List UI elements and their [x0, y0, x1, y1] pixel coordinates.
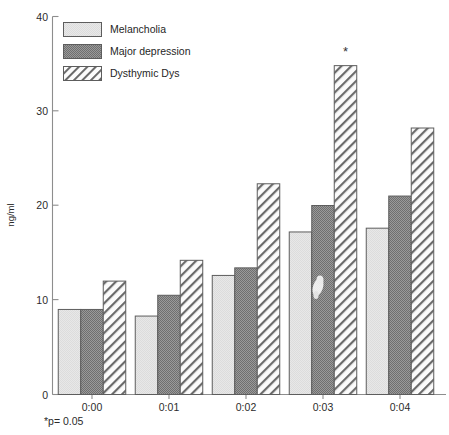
- bar-dysthymic-dys-0-03[interactable]: [334, 66, 357, 395]
- y-tick-label-10: 10: [36, 294, 48, 306]
- legend: Melancholia Major depression Dysthymic D…: [64, 23, 191, 81]
- legend-label-dysthymic-dys: Dysthymic Dys: [110, 67, 179, 79]
- x-tick-label-0: 0:00: [82, 401, 103, 413]
- bar-melancholia-0-00[interactable]: [58, 309, 81, 394]
- legend-swatch-dysthymic-dys: [64, 67, 102, 81]
- chart-canvas: 40 30 20 10 0 ng/ml 0:00 0:01 0:02 0:03 …: [0, 0, 449, 435]
- x-tick-label-3: 0:03: [313, 401, 334, 413]
- bar-dysthymic-dys-0-01[interactable]: [180, 260, 203, 394]
- bar-chart-figure: 40 30 20 10 0 ng/ml 0:00 0:01 0:02 0:03 …: [0, 0, 449, 435]
- bars-layer: [58, 66, 434, 395]
- legend-label-major-depression: Major depression: [110, 45, 191, 57]
- bar-melancholia-0-02[interactable]: [212, 275, 235, 394]
- bar-dysthymic-dys-0-02[interactable]: [257, 184, 280, 395]
- x-tick-label-2: 0:02: [236, 401, 257, 413]
- bar-group-0-03: [289, 66, 357, 395]
- legend-label-melancholia: Melancholia: [110, 23, 166, 35]
- y-axis: 40 30 20 10 0 ng/ml: [5, 11, 59, 401]
- y-tick-label-40: 40: [36, 11, 48, 23]
- bar-major-depression-0-01[interactable]: [158, 295, 181, 394]
- legend-swatch-melancholia: [64, 23, 102, 37]
- bar-dysthymic-dys-0-00[interactable]: [103, 281, 126, 394]
- x-tick-label-4: 0:04: [390, 401, 411, 413]
- x-tick-label-1: 0:01: [159, 401, 180, 413]
- y-tick-label-0: 0: [42, 389, 48, 401]
- y-tick-label-20: 20: [36, 199, 48, 211]
- bar-group-0-01: [135, 260, 203, 394]
- footnote: *p= 0.05: [44, 415, 84, 427]
- significance-asterisk: *: [343, 44, 348, 59]
- bar-melancholia-0-01[interactable]: [135, 316, 158, 394]
- y-tick-label-30: 30: [36, 105, 48, 117]
- bar-major-depression-0-04[interactable]: [389, 196, 412, 394]
- bar-group-0-02: [212, 184, 280, 395]
- bar-dysthymic-dys-0-04[interactable]: [411, 128, 434, 394]
- bar-group-0-00: [58, 281, 126, 394]
- bar-melancholia-0-04[interactable]: [366, 228, 389, 394]
- bar-major-depression-0-00[interactable]: [81, 309, 104, 394]
- x-axis: 0:00 0:01 0:02 0:03 0:04: [53, 395, 447, 414]
- legend-swatch-major-depression: [64, 45, 102, 59]
- bar-major-depression-0-02[interactable]: [235, 268, 258, 395]
- bar-melancholia-0-03[interactable]: [289, 232, 312, 395]
- bar-group-0-04: [366, 128, 434, 394]
- y-axis-title: ng/ml: [5, 203, 16, 226]
- bar-major-depression-0-03[interactable]: [312, 206, 335, 395]
